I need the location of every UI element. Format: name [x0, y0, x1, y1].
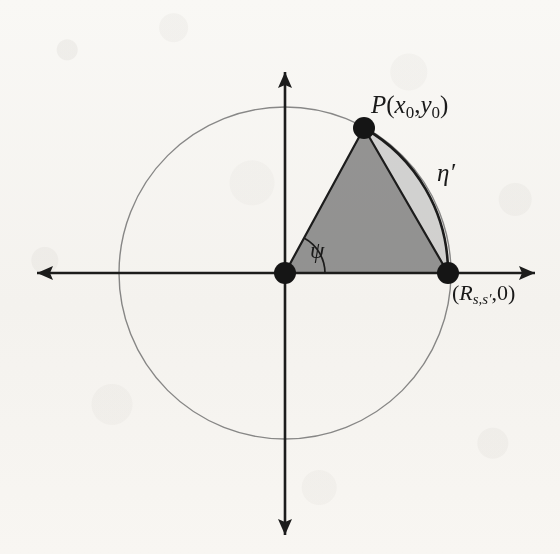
point-p-x-subscript: 0	[406, 103, 415, 122]
eta-prime-mark: ′	[449, 159, 454, 186]
radius-point-label: (Rs,s′,0)	[452, 282, 515, 307]
diagram-canvas	[0, 0, 560, 554]
radius-point-subscript: s,s′	[473, 291, 492, 307]
radius-point-r-var: R	[459, 280, 472, 305]
psi-label: ψ	[310, 239, 324, 262]
point-p-close-paren: )	[440, 91, 448, 118]
point-p-label: P(x0,y0)	[371, 92, 448, 121]
point-p-x-var: x	[395, 91, 406, 118]
point-p-y-subscript: 0	[432, 103, 441, 122]
radius-point-close-paren: )	[508, 280, 515, 305]
geometry-figure: P(x0,y0) (Rs,s′,0) η′ ψ	[0, 0, 560, 554]
eta-symbol: η	[437, 159, 449, 186]
point-p-open-paren: (	[386, 91, 394, 118]
eta-label: η′	[437, 160, 455, 185]
origin-point-dot	[274, 262, 296, 284]
radius-point-zero: 0	[497, 280, 508, 305]
point-p-name: P	[371, 91, 386, 118]
point-p-y-var: y	[420, 91, 431, 118]
